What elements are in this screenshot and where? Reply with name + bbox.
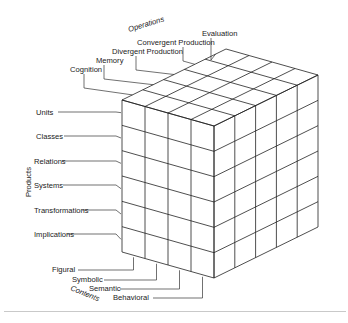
product-label-classes: Classes [36,132,63,141]
content-label-symbolic: Symbolic [72,275,103,284]
operation-label-cognition: Cognition [70,65,102,74]
structure-of-intellect-cube: Operations Cognition Memory Divergent Pr… [0,0,348,323]
operation-label-divergent-production: Divergent Production [112,47,183,56]
operation-label-evaluation: Evaluation [202,29,237,38]
product-label-systems: Systems [34,181,63,190]
content-label-figural: Figural [52,265,76,274]
cube-grid [122,49,318,278]
products-axis-label: Products [24,167,33,197]
content-label-behavioral: Behavioral [113,293,149,302]
product-label-relations: Relations [34,157,66,166]
product-label-units: Units [36,108,54,117]
operation-label-convergent-production: Convergent Production [137,38,215,47]
product-label-implications: Implications [34,230,74,239]
product-label-transformations: Transformations [34,206,89,215]
leader-lines [58,38,216,298]
bottom-divider [4,311,346,312]
operation-label-memory: Memory [96,56,124,65]
operations-axis-label: Operations [127,14,165,34]
